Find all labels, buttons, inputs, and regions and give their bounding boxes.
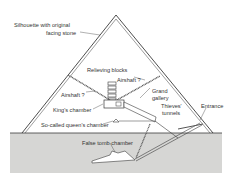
label-thieves-1: Thieves' (161, 103, 182, 109)
label-kings-chamber: King's chamber (53, 107, 91, 113)
queens-chamber (113, 119, 119, 122)
label-grand-gallery-2: gallery (152, 95, 168, 101)
label-airshaft-right: Airshaft ? (117, 77, 141, 83)
pyramid-facing (25, 19, 210, 133)
label-silhouette: Silhouette with original (14, 22, 70, 28)
relieving-blocks (108, 82, 116, 100)
label-facing-stone: facing stone (46, 30, 76, 36)
label-queens-chamber: So-called queen's chamber (41, 122, 109, 128)
label-entrance: Entrance (201, 103, 223, 109)
label-grand-gallery-1: Grand (152, 88, 168, 94)
label-thieves-2: tunnels (162, 110, 180, 116)
label-false-tomb: False tomb chamber (82, 140, 133, 146)
grand-gallery (124, 102, 156, 122)
label-airshaft-left: Airshaft ? (61, 92, 85, 98)
label-relieving-blocks: Relieving blocks (87, 67, 127, 73)
